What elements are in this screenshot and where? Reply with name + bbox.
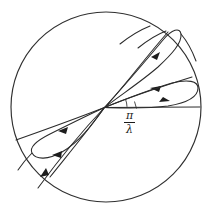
- lower-left-loop: [31, 108, 104, 159]
- steep-branch-upper-tail: [120, 26, 150, 44]
- arrowhead-right-loop-lower: [159, 97, 170, 102]
- shallow-branch-lower-left: [16, 108, 105, 141]
- right-flat-loop: [105, 81, 199, 108]
- angle-label-denominator: λ: [125, 123, 134, 135]
- figure-canvas: [0, 0, 213, 216]
- angle-arc: [126, 99, 128, 107]
- figure-container: π λ: [0, 0, 213, 216]
- angle-label-pi-over-lambda: π λ: [124, 110, 135, 135]
- angle-label-numerator: π: [125, 110, 134, 122]
- upper-right-loop-tail: [181, 34, 196, 61]
- upper-right-loop: [105, 30, 182, 108]
- arrowhead-lower-left-lower: [52, 151, 62, 158]
